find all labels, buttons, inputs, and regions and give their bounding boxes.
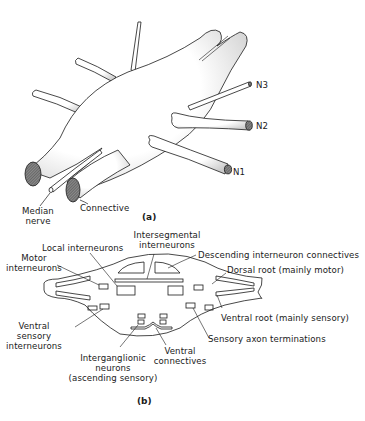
label-n1: N1 <box>233 167 245 177</box>
ganglion-3d <box>25 22 252 202</box>
nerve-upper-left-1 <box>75 58 116 82</box>
nerve-n1 <box>149 136 228 175</box>
label-ventral-sensory: Ventral sensory interneurons <box>6 321 62 351</box>
label-connective: Connective <box>80 203 129 213</box>
nerve-n2 <box>172 113 251 130</box>
label-sensory-axon-terminations: Sensory axon terminations <box>208 334 326 344</box>
label-descending-connectives: Descending interneuron connectives <box>198 250 359 260</box>
label-ventral-connectives: Ventral connectives <box>150 346 210 366</box>
panel-b-label: (b) <box>137 396 152 406</box>
label-median-nerve: Median nerve <box>20 206 56 226</box>
label-interganglionic: Interganglionic neurons (ascending senso… <box>68 353 158 383</box>
label-n2: N2 <box>256 121 268 131</box>
label-motor-interneurons: Motor interneurons <box>6 253 62 273</box>
label-local-interneurons: Local interneurons <box>42 243 123 253</box>
label-n3: N3 <box>256 80 268 90</box>
label-ventral-root: Ventral root (mainly sensory) <box>221 313 349 323</box>
label-dorsal-root: Dorsal root (mainly motor) <box>227 265 344 275</box>
nerve-top-vertical <box>131 22 141 72</box>
label-intersegmental: Intersegmental interneurons <box>132 230 202 250</box>
panel-a-label: (a) <box>142 212 156 222</box>
